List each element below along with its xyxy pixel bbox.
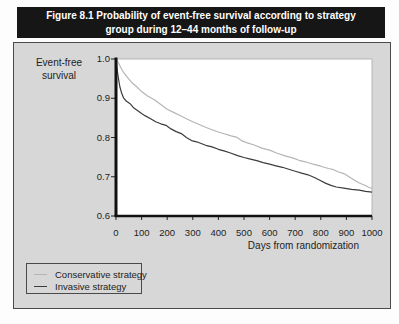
x-tick-label: 700 [287, 227, 303, 238]
figure-title-line-2: group during 12–44 months of follow-up [105, 23, 296, 36]
y-tick-label: 0.6 [82, 210, 110, 221]
page: Figure 8.1 Probability of event-free sur… [0, 0, 399, 324]
plot-area-bg [116, 59, 372, 216]
legend-item-conservative: Conservative strategy [34, 268, 141, 280]
figure-title-line-1: Figure 8.1 Probability of event-free sur… [46, 9, 356, 22]
x-tick-labels: 01002003004005006007008009001000 [116, 227, 372, 239]
figure-panel: Event-free survival 1.00.90.80.70.6 0100… [13, 42, 391, 309]
figure-title-bar: Figure 8.1 Probability of event-free sur… [17, 7, 385, 38]
x-tick-label: 0 [113, 227, 118, 238]
x-tick-label: 900 [338, 227, 354, 238]
conservative-line-swatch [34, 274, 47, 275]
legend: Conservative strategy Invasive strategy [26, 263, 142, 294]
x-tick-label: 500 [236, 227, 252, 238]
y-tick-label: 0.9 [82, 92, 110, 103]
y-tick-labels: 1.00.90.80.70.6 [82, 59, 110, 216]
x-tick-label: 800 [313, 227, 329, 238]
x-tick-label: 200 [159, 227, 175, 238]
legend-label-invasive: Invasive strategy [55, 281, 126, 292]
y-tick-label: 0.8 [82, 132, 110, 143]
y-tick-label: 1.0 [82, 53, 110, 64]
x-tick-label: 1000 [361, 227, 382, 238]
legend-label-conservative: Conservative strategy [55, 269, 147, 280]
legend-item-invasive: Invasive strategy [34, 280, 141, 292]
x-axis-title: Days from randomization [116, 240, 372, 251]
x-tick-label: 600 [262, 227, 278, 238]
invasive-line-swatch [34, 286, 47, 287]
x-tick-label: 300 [185, 227, 201, 238]
plot-svg [116, 59, 372, 216]
x-tick-label: 400 [210, 227, 226, 238]
y-tick-label: 0.7 [82, 171, 110, 182]
x-tick-label: 100 [134, 227, 150, 238]
